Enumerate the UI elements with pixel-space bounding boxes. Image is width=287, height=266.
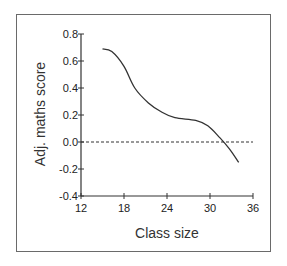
y-tick-label: -0.2 bbox=[59, 163, 78, 175]
y-tick-label: 0.8 bbox=[63, 28, 78, 40]
x-tick-label: 24 bbox=[161, 202, 173, 214]
y-tick-label: 0.6 bbox=[63, 55, 78, 67]
x-tick-label: 18 bbox=[118, 202, 130, 214]
data-line bbox=[103, 49, 239, 162]
line-chart: -0.4-0.20.00.20.40.60.8 1218243036 Class… bbox=[0, 0, 287, 266]
y-tick-label: 0.4 bbox=[63, 82, 78, 94]
y-tick-label: 0.2 bbox=[63, 109, 78, 121]
y-tick-label: 0.0 bbox=[63, 136, 78, 148]
y-axis-title: Adj. maths score bbox=[32, 62, 48, 166]
x-tick-label: 36 bbox=[247, 202, 259, 214]
x-tick-label: 12 bbox=[75, 202, 87, 214]
y-tick-label: -0.4 bbox=[59, 190, 78, 202]
y-axis-ticks: -0.4-0.20.00.20.40.60.8 bbox=[59, 28, 84, 202]
x-tick-label: 30 bbox=[204, 202, 216, 214]
x-axis-title: Class size bbox=[135, 225, 199, 241]
